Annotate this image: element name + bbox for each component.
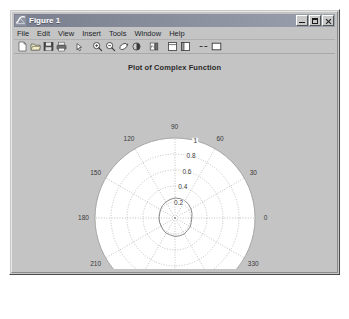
- menu-item-file[interactable]: File: [14, 28, 33, 39]
- menu-item-window[interactable]: Window: [130, 28, 165, 39]
- theta-tick-90: 90: [171, 124, 178, 131]
- figure-window: Figure 1 File Edit View Insert Tools Win…: [9, 9, 340, 275]
- rotate-3d-icon[interactable]: [117, 41, 129, 53]
- edit-plot-icon[interactable]: [73, 41, 85, 53]
- save-figure-icon[interactable]: [42, 41, 54, 53]
- insert-legend-icon[interactable]: [166, 41, 178, 53]
- r-tick-1: 1: [192, 137, 198, 144]
- insert-colorbar-icon[interactable]: [148, 41, 160, 53]
- zoom-in-icon[interactable]: [91, 41, 103, 53]
- theta-tick-0: 0: [264, 215, 268, 222]
- theta-tick-60: 60: [216, 136, 223, 143]
- zoom-out-icon[interactable]: [104, 41, 116, 53]
- hide-plot-tools-icon[interactable]: [179, 41, 191, 53]
- title-bar[interactable]: Figure 1: [14, 14, 335, 27]
- menu-item-help[interactable]: Help: [165, 28, 188, 39]
- theta-tick-180: 180: [78, 215, 89, 222]
- matlab-figure-icon: [15, 15, 26, 26]
- maximize-button[interactable]: [309, 15, 321, 26]
- r-tick-0_8: 0.8: [186, 153, 197, 160]
- open-file-icon[interactable]: [29, 41, 41, 53]
- r-tick-0_4: 0.4: [177, 184, 188, 191]
- menu-item-view[interactable]: View: [54, 28, 78, 39]
- r-tick-0_6: 0.6: [181, 168, 192, 175]
- menu-item-tools[interactable]: Tools: [105, 28, 131, 39]
- theta-tick-120: 120: [124, 136, 135, 143]
- data-cursor-icon[interactable]: [130, 41, 142, 53]
- close-button[interactable]: [322, 15, 334, 26]
- theta-tick-330: 330: [248, 260, 259, 267]
- new-figure-icon[interactable]: [16, 41, 28, 53]
- minimize-button[interactable]: [296, 15, 308, 26]
- figure-canvas[interactable]: Plot of Complex Function 030609012015018…: [15, 54, 334, 269]
- toolbar: [14, 40, 335, 54]
- r-tick-0_2: 0.2: [173, 199, 184, 206]
- window-title: Figure 1: [29, 15, 60, 26]
- menu-item-edit[interactable]: Edit: [33, 28, 54, 39]
- plot-browser-icon[interactable]: [210, 41, 222, 53]
- theta-tick-210: 210: [90, 260, 101, 267]
- print-figure-icon[interactable]: [55, 41, 67, 53]
- window-controls: [296, 15, 334, 26]
- polar-axes: 03060901201501802102402703003300.20.40.6…: [87, 130, 263, 269]
- figure-window-inner: Figure 1 File Edit View Insert Tools Win…: [11, 11, 338, 273]
- menu-bar: File Edit View Insert Tools Window Help: [14, 28, 335, 40]
- theta-tick-150: 150: [90, 169, 101, 176]
- menu-item-insert[interactable]: Insert: [78, 28, 105, 39]
- show-plot-tools-icon[interactable]: [197, 41, 209, 53]
- theta-tick-30: 30: [250, 169, 257, 176]
- screenshot-root: Figure 1 File Edit View Insert Tools Win…: [0, 0, 349, 319]
- plot-title: Plot of Complex Function: [15, 63, 334, 72]
